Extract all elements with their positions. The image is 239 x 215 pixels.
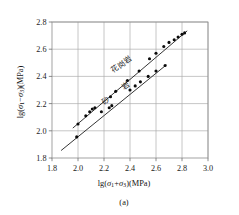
data-point (93, 106, 96, 109)
x-tick-label: 2.4 (125, 164, 135, 173)
x-tick-label: 2.8 (177, 164, 187, 173)
y-tick-label: 2.0 (36, 127, 46, 136)
y-tick-label: 1.8 (36, 154, 46, 163)
data-point (110, 104, 113, 107)
data-point (76, 122, 79, 125)
chart-canvas: 1.82.02.22.42.62.83.0 1.82.02.22.42.62.8… (0, 0, 239, 215)
y-tick-label: 2.8 (36, 18, 46, 27)
y-tick-label: 2.2 (36, 100, 46, 109)
data-point (162, 45, 165, 48)
data-point (154, 69, 157, 72)
data-point (148, 57, 151, 60)
data-point (173, 38, 176, 41)
data-point (183, 31, 186, 34)
data-point (128, 88, 131, 91)
data-point (139, 80, 142, 83)
data-point (177, 35, 180, 38)
data-point (108, 106, 111, 109)
data-point (100, 110, 103, 113)
data-point (84, 114, 87, 117)
y-tick-label: 2.4 (36, 72, 46, 81)
data-point (138, 69, 141, 72)
data-point (88, 110, 91, 113)
data-point (147, 75, 150, 78)
y-axis-title: lg(σ1−σ3)(MPa) (16, 65, 25, 118)
data-point (164, 64, 167, 67)
data-point (167, 41, 170, 44)
figure-caption: (a) (119, 198, 129, 207)
data-point (109, 95, 112, 98)
x-tick-label: 2.0 (73, 164, 83, 173)
x-tick-label: 2.2 (99, 164, 109, 173)
x-axis-title: lg(σ1+σ3)(MPa) (98, 179, 151, 188)
x-tick-label: 1.8 (47, 164, 57, 173)
figure-container: 1.82.02.22.42.62.83.0 1.82.02.22.42.62.8… (0, 0, 239, 215)
data-point (154, 52, 157, 55)
data-point (75, 135, 78, 138)
data-point (114, 90, 117, 93)
data-point (134, 84, 137, 87)
x-tick-label: 3.0 (203, 164, 213, 173)
y-tick-label: 2.6 (36, 45, 46, 54)
x-tick-label: 2.6 (151, 164, 161, 173)
